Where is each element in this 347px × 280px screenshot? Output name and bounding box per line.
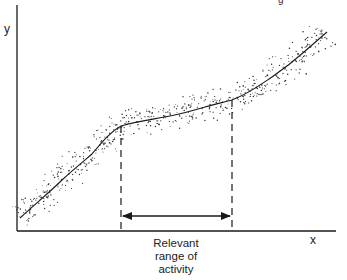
fitted-cost-curve [20, 32, 327, 218]
relevant-range-label: Relevant range of activity [126, 237, 226, 276]
cropped-title-fragment: g [278, 0, 284, 5]
scatter-points [12, 26, 336, 225]
range-label-line-2: range of [126, 250, 226, 263]
cost-behavior-diagram: y x g Relevant range of activity [0, 0, 347, 280]
range-label-line-3: activity [126, 263, 226, 276]
x-axis-label: x [310, 233, 316, 247]
y-axis-label: y [4, 22, 10, 36]
range-label-line-1: Relevant [126, 237, 226, 250]
